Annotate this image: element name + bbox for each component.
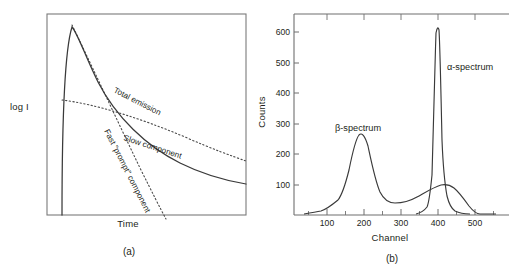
svg-text:500: 500: [276, 58, 291, 68]
panel-b-top-ticks: [327, 14, 475, 20]
svg-text:500: 500: [468, 218, 483, 228]
panel-b-xticks-major: [327, 209, 475, 215]
curve-total-emission: [62, 27, 246, 215]
panel-a-caption: (a): [123, 246, 135, 257]
panel-b-ytick-labels: 100 200 300 400 500 600: [276, 27, 291, 190]
panel-a-ylabel: log I: [10, 101, 29, 112]
svg-text:600: 600: [276, 27, 291, 37]
label-beta-spectrum: β-spectrum: [335, 123, 381, 133]
svg-text:100: 100: [276, 180, 291, 190]
svg-text:100: 100: [320, 218, 335, 228]
figure-container: Total emission Slow component Fast "prom…: [0, 0, 516, 273]
panel-b: 100 200 300 400 500 600: [258, 0, 516, 273]
svg-text:300: 300: [394, 218, 409, 228]
panel-a: Total emission Slow component Fast "prom…: [0, 0, 258, 273]
curve-beta-spectrum: [304, 134, 496, 214]
label-alpha-spectrum: α-spectrum: [447, 62, 493, 72]
panel-a-xlabel: Time: [117, 218, 139, 229]
panel-b-frame: [294, 14, 509, 215]
svg-text:300: 300: [276, 119, 291, 129]
panel-b-xlabel: Channel: [372, 232, 409, 243]
label-slow-component: Slow component: [122, 133, 183, 160]
panel-b-yticks: [294, 32, 299, 185]
svg-text:200: 200: [357, 218, 372, 228]
panel-a-frame: [47, 14, 246, 215]
svg-text:400: 400: [276, 88, 291, 98]
panel-b-ylabel: Counts: [256, 96, 267, 127]
curve-fast-prompt-component: [72, 25, 166, 219]
svg-text:200: 200: [276, 149, 291, 159]
panel-b-caption: (b): [386, 253, 398, 264]
curve-alpha-spectrum: [416, 28, 470, 214]
svg-text:400: 400: [431, 218, 446, 228]
panel-b-xtick-labels: 100 200 300 400 500: [320, 218, 483, 228]
panel-a-plot: Total emission Slow component Fast "prom…: [0, 0, 258, 273]
